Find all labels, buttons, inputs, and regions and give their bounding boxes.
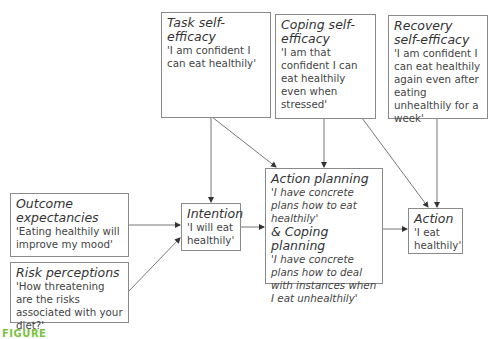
node-desc: 'I am confident I can eat healthily' [167,44,265,70]
node-title: Risk perceptions [16,266,123,280]
node-title: Outcome expectancies [16,197,123,225]
node-title: Intention [187,207,235,221]
node-desc: 'I eat healthily' [414,226,457,252]
edge-risk-intention [128,238,180,292]
node-task-self-efficacy: Task self-efficacy 'I am confident I can… [161,12,271,118]
node-action: Action 'I eat healthily' [408,208,463,254]
edge-task-planning [212,117,276,167]
node-desc: 'How threatening are the risks associate… [16,280,123,332]
figure-caption: FIGURE [2,328,46,339]
node-desc: 'Eating healthily will improve my mood' [16,225,123,251]
node-title-2: & Coping planning [271,225,377,253]
node-risk-perceptions: Risk perceptions 'How threatening are th… [10,262,129,323]
node-action-coping-planning: Action planning 'I have concrete plans h… [265,168,383,284]
node-recovery-self-efficacy: Recovery self-efficacy 'I am confident I… [388,15,488,119]
node-title: Task self-efficacy [167,16,265,44]
node-outcome-expectancies: Outcome expectancies 'Eating healthily w… [10,193,129,257]
node-coping-self-efficacy: Coping self-efficacy 'I am that confiden… [275,14,376,119]
node-title: Action [414,212,457,226]
node-title: Coping self-efficacy [281,18,370,46]
node-desc: 'I have concrete plans how to eat health… [271,186,377,225]
node-desc: 'I will eat healthily' [187,221,235,247]
node-intention: Intention 'I will eat healthily' [181,203,241,251]
node-desc: 'I am confident I can eat healthily agai… [394,47,482,125]
node-title: Action planning [271,172,377,186]
node-title: Recovery self-efficacy [394,19,482,47]
node-desc: 'I am that confident I can eat healthily… [281,46,370,111]
node-desc-2: 'I have concrete plans how to deal with … [271,253,377,305]
